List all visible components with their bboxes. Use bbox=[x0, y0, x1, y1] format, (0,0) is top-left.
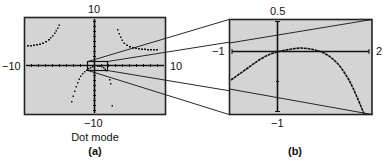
panel-a-mode-label: Dot mode bbox=[55, 131, 135, 143]
panel-b-y-max-label: 0.5 bbox=[270, 5, 285, 17]
panel-b-x-min-label: −1 bbox=[212, 45, 225, 57]
panel-b-y-min-label: −1 bbox=[271, 117, 284, 129]
panel-b-x-max-label: 2 bbox=[376, 45, 382, 57]
panel-a-graph bbox=[25, 18, 166, 115]
panel-a-caption: (a) bbox=[55, 145, 135, 157]
panel-a-x-max-label: 10 bbox=[170, 60, 182, 72]
panel-b-caption: (b) bbox=[270, 145, 320, 157]
panel-a-x-min-label: −10 bbox=[2, 60, 21, 72]
panel-b-graph bbox=[230, 20, 373, 115]
panel-a-y-max-label: 10 bbox=[88, 3, 100, 15]
panel-b-screen bbox=[230, 20, 373, 115]
panel-a-y-min-label: −10 bbox=[84, 117, 103, 129]
